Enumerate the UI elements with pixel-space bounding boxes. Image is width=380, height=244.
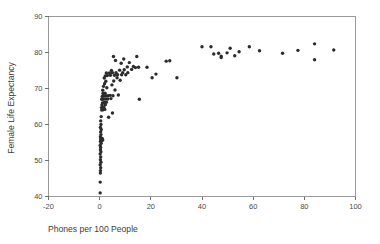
- data-point: [122, 57, 125, 60]
- data-point: [99, 166, 102, 169]
- data-point: [115, 76, 118, 79]
- data-point: [281, 52, 284, 55]
- data-point: [98, 180, 101, 183]
- data-point: [117, 93, 120, 96]
- data-point: [137, 66, 140, 69]
- data-point: [135, 55, 138, 58]
- data-point: [118, 68, 121, 71]
- data-point: [113, 88, 116, 91]
- x-tick-label: 60: [249, 202, 257, 211]
- data-point: [225, 51, 228, 54]
- data-point: [114, 59, 117, 62]
- x-axis-title: Phones per 100 People: [48, 224, 138, 234]
- data-point: [130, 68, 133, 71]
- data-point: [168, 59, 171, 62]
- data-point: [111, 111, 114, 114]
- data-point: [248, 45, 251, 48]
- data-point: [164, 59, 167, 62]
- data-point: [175, 76, 178, 79]
- data-point: [313, 42, 316, 45]
- data-point: [123, 68, 126, 71]
- y-tick-label: 90: [34, 12, 42, 21]
- x-tick-label: 20: [147, 202, 155, 211]
- data-point: [99, 119, 102, 122]
- data-point: [209, 45, 212, 48]
- data-point: [237, 50, 240, 53]
- data-point: [105, 71, 108, 74]
- data-point: [99, 126, 102, 129]
- data-point: [98, 191, 101, 194]
- x-tick-label: 40: [198, 202, 206, 211]
- data-point: [99, 158, 102, 161]
- data-point: [150, 76, 153, 79]
- x-tick-label: 80: [300, 202, 308, 211]
- data-point: [154, 72, 157, 75]
- scatter-plot-figure: -20020406080100 405060708090 Phones per …: [0, 0, 380, 244]
- data-point: [110, 69, 113, 72]
- y-axis-title: Female Life Expectancy: [6, 61, 16, 153]
- data-point: [217, 52, 220, 55]
- data-point: [114, 71, 117, 74]
- data-point: [109, 97, 112, 100]
- data-point: [110, 83, 113, 86]
- data-point: [132, 65, 135, 68]
- data-point: [212, 52, 215, 55]
- data-point: [112, 79, 115, 82]
- data-point: [118, 79, 121, 82]
- y-tick-label: 40: [34, 192, 42, 201]
- data-point: [126, 71, 129, 74]
- data-point: [99, 123, 102, 126]
- data-point: [104, 80, 107, 83]
- y-tick-label: 60: [34, 120, 42, 129]
- data-point: [106, 97, 109, 100]
- x-tick-label: 100: [349, 202, 362, 211]
- data-point: [121, 71, 124, 74]
- data-point: [107, 116, 110, 119]
- x-tick-label: 0: [98, 202, 102, 211]
- data-point: [99, 155, 102, 158]
- data-point: [332, 48, 335, 51]
- plot-svg: -20020406080100 405060708090 Phones per …: [0, 0, 380, 244]
- data-point: [103, 91, 106, 94]
- data-point: [138, 98, 141, 101]
- data-point: [119, 62, 122, 65]
- data-point: [99, 169, 102, 172]
- x-tick-label: -20: [43, 202, 54, 211]
- data-point: [100, 115, 103, 118]
- figure-background: [0, 0, 380, 244]
- y-tick-label: 80: [34, 48, 42, 57]
- data-point: [126, 65, 129, 68]
- y-tick-label: 50: [34, 156, 42, 165]
- data-point: [128, 61, 131, 64]
- data-point: [233, 54, 236, 57]
- data-point: [105, 100, 108, 103]
- data-point: [200, 45, 203, 48]
- data-point: [111, 94, 114, 97]
- data-point: [145, 66, 148, 69]
- data-point: [219, 54, 222, 57]
- data-point: [112, 55, 115, 58]
- data-point: [313, 58, 316, 61]
- data-point: [258, 49, 261, 52]
- data-point: [228, 46, 231, 49]
- y-tick-label: 70: [34, 84, 42, 93]
- data-point: [296, 49, 299, 52]
- data-point: [101, 89, 104, 92]
- data-point: [105, 86, 108, 89]
